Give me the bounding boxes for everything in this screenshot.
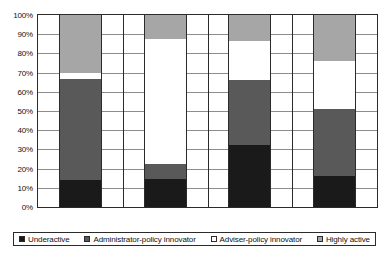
bar-segment[interactable] <box>314 109 355 176</box>
y-axis-tick-label: 30% <box>18 145 33 154</box>
stacked-bar[interactable] <box>228 15 271 207</box>
y-axis-tick-label: 40% <box>18 126 33 135</box>
legend-item-adviser-policy-innovator: Adviser-policy innovator <box>211 235 303 244</box>
y-axis: 100% 90% 80% 70% 60% 50% 40% 30% 20% 10%… <box>0 14 37 208</box>
y-axis-tick-label: 80% <box>18 49 33 58</box>
bar-segment[interactable] <box>229 80 270 144</box>
stacked-bar[interactable] <box>59 15 102 207</box>
legend-item-label: Highly active <box>326 235 370 244</box>
bar-segment[interactable] <box>314 15 355 61</box>
y-axis-tick-label: 0% <box>22 203 33 212</box>
legend-item-highly-active: Highly active <box>317 235 370 244</box>
y-axis-tick-label: 70% <box>18 68 33 77</box>
legend-item-label: Underactive <box>28 235 70 244</box>
bar-segment[interactable] <box>314 61 355 109</box>
bar-group <box>292 15 377 207</box>
bar-series-container <box>38 15 377 207</box>
bar-segment[interactable] <box>314 176 355 207</box>
plot-area <box>37 14 378 208</box>
stacked-bar[interactable] <box>144 15 187 207</box>
legend-swatch-icon <box>19 236 25 242</box>
chart-legend: Underactive Administrator-policy innovat… <box>13 232 376 246</box>
legend-item-administrator-policy-innovator: Administrator-policy innovator <box>84 235 195 244</box>
y-axis-tick-label: 50% <box>18 107 33 116</box>
y-axis-tick-label: 60% <box>18 87 33 96</box>
bar-segment[interactable] <box>145 164 186 179</box>
legend-swatch-icon <box>84 236 90 242</box>
y-axis-tick-label: 20% <box>18 164 33 173</box>
stacked-bar[interactable] <box>313 15 356 207</box>
y-axis-tick-label: 90% <box>18 30 33 39</box>
stacked-bar-chart: 100% 90% 80% 70% 60% 50% 40% 30% 20% 10%… <box>0 0 389 265</box>
bar-group <box>208 15 293 207</box>
bar-segment[interactable] <box>60 180 101 207</box>
legend-item-underactive: Underactive <box>19 235 70 244</box>
bar-segment[interactable] <box>60 79 101 180</box>
bar-segment[interactable] <box>229 145 270 207</box>
legend-item-label: Adviser-policy innovator <box>220 235 303 244</box>
legend-item-label: Administrator-policy innovator <box>93 235 195 244</box>
bar-group <box>38 15 123 207</box>
bar-group <box>123 15 208 207</box>
bar-segment[interactable] <box>229 41 270 80</box>
y-axis-tick-label: 100% <box>13 11 33 20</box>
legend-swatch-icon <box>211 236 217 242</box>
bar-segment[interactable] <box>229 15 270 41</box>
bar-segment[interactable] <box>145 179 186 207</box>
x-axis <box>37 209 378 227</box>
bar-segment[interactable] <box>145 15 186 39</box>
bar-segment[interactable] <box>60 15 101 73</box>
legend-swatch-icon <box>317 236 323 242</box>
bar-segment[interactable] <box>60 73 101 80</box>
bar-segment[interactable] <box>145 39 186 164</box>
y-axis-tick-label: 10% <box>18 183 33 192</box>
